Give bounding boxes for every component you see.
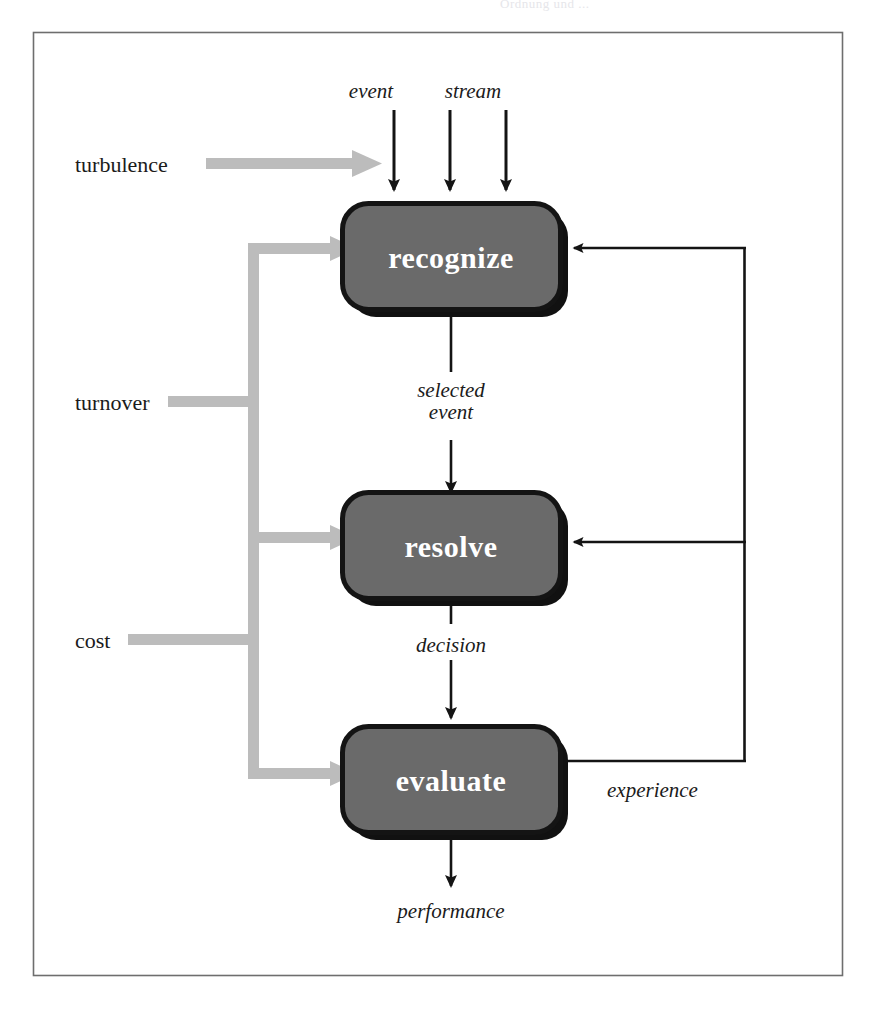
label-turbulence: turbulence	[75, 152, 168, 177]
gray-branch-cost	[128, 634, 253, 645]
gray-branch-turnover	[168, 396, 253, 407]
label-selected-event-line1: selected	[417, 378, 485, 402]
process-box-resolve[interactable]: resolve	[343, 493, 569, 607]
label-cost: cost	[75, 628, 110, 653]
label-stream: stream	[445, 79, 501, 103]
label-event: event	[349, 79, 394, 103]
recognize-label: recognize	[388, 241, 514, 274]
label-selected-event-line2: event	[429, 400, 474, 424]
flowchart-diagram: turbulence turnover cost event stream ex…	[0, 0, 873, 1009]
label-decision: decision	[416, 633, 486, 657]
label-performance: performance	[395, 899, 504, 923]
evaluate-label: evaluate	[396, 764, 507, 797]
gray-trunk-line	[248, 243, 259, 779]
event-stream-arrows	[394, 110, 506, 190]
label-experience: experience	[607, 778, 698, 802]
gray-arrow-turbulence	[206, 150, 382, 177]
resolve-label: resolve	[405, 530, 498, 563]
process-box-recognize[interactable]: recognize	[343, 204, 569, 318]
figure-page: Ordnung und ...	[0, 0, 873, 1009]
label-turnover: turnover	[75, 390, 150, 415]
process-box-evaluate[interactable]: evaluate	[343, 727, 569, 841]
experience-feedback-lines	[568, 247, 746, 761]
